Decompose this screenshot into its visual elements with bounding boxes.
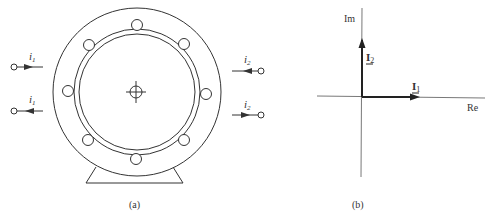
svg-text:i1: i1 <box>29 93 36 107</box>
diagram-canvas: i1 i1 i2 i2 (a) Im Re I2 I1 (b) <box>0 0 494 222</box>
bolt-hole <box>63 86 74 97</box>
bolt-hole <box>179 39 190 50</box>
terminal-i2-in: i2 <box>232 98 264 118</box>
bolt-hole <box>132 20 143 31</box>
phasor-i2-label: I2 <box>366 51 374 65</box>
terminal-i1-out: i1 <box>11 93 43 114</box>
bolt-hole <box>83 135 94 146</box>
motor-drawing <box>53 8 221 183</box>
terminal-i1-in: i1 <box>11 50 43 70</box>
re-axis-label: Re <box>467 102 479 113</box>
bolt-hole <box>84 40 95 51</box>
svg-text:i2: i2 <box>244 53 251 67</box>
caption-a: (a) <box>129 199 140 211</box>
svg-text:i2: i2 <box>244 98 251 112</box>
phasor-i1-label: I1 <box>412 80 420 94</box>
terminal-i2-out: i2 <box>232 53 264 74</box>
im-axis-label: Im <box>344 13 355 24</box>
svg-text:i1: i1 <box>29 50 36 64</box>
caption-b: (b) <box>352 199 364 211</box>
phasor-diagram: Im Re I2 I1 <box>317 8 485 177</box>
bolt-hole <box>201 89 212 100</box>
bolt-hole <box>131 154 142 165</box>
bolt-hole <box>179 135 190 146</box>
